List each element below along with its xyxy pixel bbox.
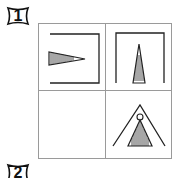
grid-cell-bottom-left-empty[interactable] <box>39 91 106 158</box>
question-number-2: 2 <box>6 164 30 178</box>
bracket-wedge-up-icon <box>106 24 171 91</box>
grid-cell-top-right <box>106 24 171 91</box>
puzzle-grid <box>38 23 172 159</box>
grid-cell-top-left <box>39 24 106 91</box>
grid-cell-bottom-right <box>106 91 171 158</box>
question-number-badge-2: 2 <box>6 163 30 178</box>
chevron-circle-triangle-icon <box>106 91 171 158</box>
question-number-1: 1 <box>6 7 30 25</box>
question-number-badge-1: 1 <box>6 6 30 26</box>
bracket-wedge-right-icon <box>39 24 106 91</box>
